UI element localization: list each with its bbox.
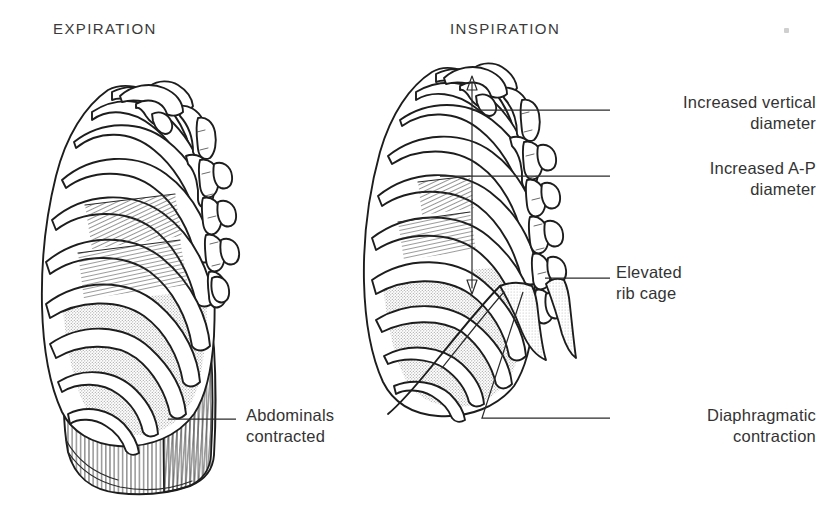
label-elevated-rib-cage: Elevated rib cage: [616, 262, 816, 304]
label-line-1: Increased A-P: [710, 159, 816, 177]
label-increased-vertical-diameter: Increased vertical diameter: [616, 92, 816, 134]
label-diaphragmatic-contraction: Diaphragmatic contraction: [616, 405, 816, 447]
inspiration-title: INSPIRATION: [450, 20, 560, 37]
label-line-2: diameter: [616, 113, 816, 134]
label-abdominals-contracted: Abdominals contracted: [246, 405, 446, 447]
label-line-2: contracted: [246, 426, 446, 447]
scan-speck: [784, 28, 789, 33]
label-line-2: contraction: [616, 426, 816, 447]
label-line-1: Diaphragmatic: [707, 406, 816, 424]
inspiration-figure: [364, 63, 610, 421]
label-increased-ap-diameter: Increased A-P diameter: [616, 158, 816, 200]
label-line-1: Increased vertical: [683, 93, 816, 111]
illustration-canvas: EXPIRATION INSPIRATION Increased vertica…: [0, 0, 821, 515]
expiration-figure: [42, 81, 239, 494]
label-line-2: rib cage: [616, 283, 816, 304]
label-line-1: Elevated: [616, 263, 682, 281]
expiration-title: EXPIRATION: [53, 20, 157, 37]
label-line-1: Abdominals: [246, 406, 334, 424]
label-line-2: diameter: [616, 179, 816, 200]
